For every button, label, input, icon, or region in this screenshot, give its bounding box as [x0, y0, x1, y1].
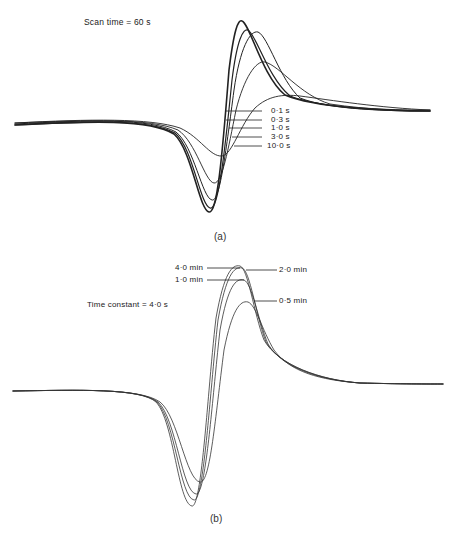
panel-a-caption: (a) [214, 231, 226, 242]
curve-b-1min [13, 280, 443, 494]
legend-b-0-5min: 0·5 min [279, 296, 307, 305]
legend-a-10s: 10·0 s [267, 141, 290, 150]
legend-a-1s: 1·0 s [271, 123, 290, 132]
panel-b-caption: (b) [210, 513, 222, 524]
panel-b-annotation: Time constant = 4·0 s [87, 300, 168, 309]
legend-a-3s: 3·0 s [271, 132, 290, 141]
legend-b-2min: 2·0 min [279, 265, 307, 274]
legend-a-0-1s: 0·1 s [271, 106, 290, 115]
curve-b-4min [13, 266, 443, 506]
curve-b-2min [13, 268, 443, 500]
panel-a-leaders [226, 111, 262, 146]
curve-a-0-3s [15, 30, 430, 208]
panel-a-annotation: Scan time = 60 s [84, 17, 151, 27]
legend-b-4min: 4·0 min [175, 263, 203, 272]
panel-a-curves [15, 21, 430, 212]
curve-b-0-5min [13, 302, 443, 482]
panel-b-curves [13, 266, 443, 506]
panel-b-leaders [207, 268, 277, 301]
curve-a-0-1s [15, 21, 430, 212]
curve-a-1s [15, 32, 430, 200]
figure-canvas [0, 0, 457, 542]
legend-b-1min: 1·0 min [175, 275, 203, 284]
